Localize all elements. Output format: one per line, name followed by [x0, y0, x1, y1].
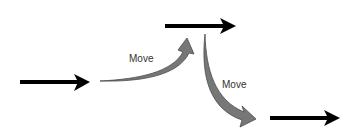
move-label-up: Move [129, 53, 153, 64]
diagram-canvas: Move Move [0, 0, 348, 134]
left-arrow [20, 74, 90, 91]
top-arrow [165, 18, 236, 34]
move-label-down: Move [222, 79, 246, 90]
diagram-svg [0, 0, 348, 134]
bottom-right-arrow [270, 110, 340, 126]
